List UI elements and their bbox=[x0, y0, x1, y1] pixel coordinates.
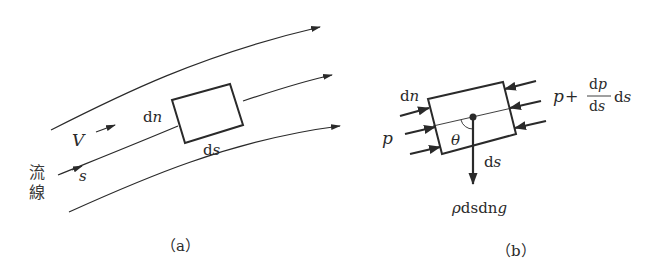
panel-a: dn ds V s 流 線 （a） bbox=[29, 27, 340, 255]
panel-b: dn p θ ds ρdsdng p + dp ds ds （b） bbox=[382, 76, 632, 260]
pressure-arrow-left-2 bbox=[405, 127, 435, 134]
svg-text:ds: ds bbox=[614, 88, 632, 106]
label-velocity: V bbox=[72, 130, 86, 150]
label-dn-a: dn bbox=[143, 108, 162, 126]
streamline-force-diagram: dn ds V s 流 線 （a） dn p θ ds ρdsdng p + d… bbox=[0, 0, 672, 274]
pressure-arrow-right-3 bbox=[515, 121, 546, 128]
label-streamline-char2: 線 bbox=[29, 183, 45, 202]
label-s: s bbox=[79, 167, 87, 185]
svg-text:p: p bbox=[553, 86, 564, 106]
pressure-arrow-left-1 bbox=[400, 108, 429, 116]
label-p-upstream: p bbox=[382, 128, 393, 148]
fluid-element-box bbox=[172, 84, 243, 143]
caption-b: （b） bbox=[496, 242, 536, 260]
velocity-arrow bbox=[96, 125, 115, 132]
pressure-arrow-right-1 bbox=[505, 81, 536, 89]
svg-text:+: + bbox=[565, 87, 578, 106]
label-theta: θ bbox=[451, 131, 460, 149]
label-ds-b: ds bbox=[484, 153, 502, 171]
caption-a: （a） bbox=[161, 237, 200, 255]
pressure-arrow-left-3 bbox=[410, 147, 440, 154]
label-dn-b: dn bbox=[400, 87, 419, 105]
pressure-arrow-right-2 bbox=[510, 101, 541, 108]
label-weight: ρdsdng bbox=[451, 199, 507, 217]
label-ds-a: ds bbox=[203, 141, 221, 159]
fraction-denominator: ds bbox=[589, 98, 605, 114]
label-p-downstream: p + dp ds ds bbox=[553, 76, 632, 114]
label-streamline-char1: 流 bbox=[29, 163, 45, 182]
streamline-bottom bbox=[69, 126, 340, 212]
fraction-numerator: dp bbox=[589, 76, 607, 92]
